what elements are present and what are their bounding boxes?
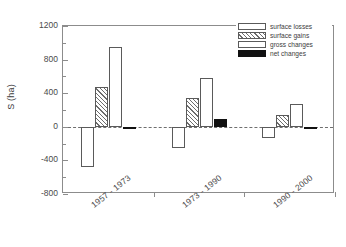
- y-axis-tick-major: [63, 26, 68, 27]
- legend-label: surface gains: [270, 32, 309, 39]
- y-axis-tick-major: [63, 194, 68, 195]
- bar-gross-changes: [200, 78, 213, 127]
- y-axis-tick-label: -400: [14, 154, 58, 164]
- x-axis-tick: [154, 192, 155, 197]
- bar-surface-gains: [95, 87, 108, 126]
- y-axis-tick-label: 800: [14, 54, 58, 64]
- legend-swatch: [238, 32, 266, 40]
- legend-swatch: [238, 50, 266, 58]
- figure: S (ha) surface lossessurface gainsgross …: [0, 0, 346, 247]
- bar-gross-changes: [109, 47, 122, 127]
- y-axis-tick-major: [63, 160, 68, 161]
- legend-label: surface losses: [270, 23, 312, 30]
- zero-reference-line: [63, 127, 333, 128]
- legend-swatch: [238, 23, 266, 31]
- legend-swatch: [238, 41, 266, 49]
- y-axis-tick-minor: [63, 144, 66, 145]
- x-axis-tick: [335, 192, 336, 197]
- y-axis-tick-major: [63, 60, 68, 61]
- bar-surface-gains: [276, 115, 289, 127]
- y-axis-tick-minor: [63, 177, 66, 178]
- bar-surface-losses: [262, 127, 275, 138]
- y-axis-tick-major: [63, 127, 68, 128]
- legend-label: gross changes: [270, 41, 313, 48]
- y-axis-tick-minor: [63, 76, 66, 77]
- bar-surface-losses: [172, 127, 185, 148]
- bar-gross-changes: [290, 104, 303, 127]
- y-axis-tick-minor: [63, 43, 66, 44]
- legend-item: net changes: [238, 49, 330, 58]
- chart-legend: surface lossessurface gainsgross changes…: [236, 20, 332, 60]
- y-axis-tick-major: [63, 93, 68, 94]
- y-axis-tick-label: 1200: [14, 20, 58, 30]
- y-axis-tick-label: -800: [14, 188, 58, 198]
- bar-net-changes: [304, 127, 317, 129]
- x-axis-tick: [244, 192, 245, 197]
- bar-surface-losses: [81, 127, 94, 167]
- y-axis-tick-label: 400: [14, 87, 58, 97]
- legend-label: net changes: [270, 50, 306, 57]
- bar-net-changes: [123, 127, 136, 129]
- y-axis-tick-label: 0: [14, 121, 58, 131]
- bar-surface-gains: [186, 98, 199, 127]
- legend-item: surface losses: [238, 22, 330, 31]
- bar-net-changes: [214, 119, 227, 127]
- legend-item: gross changes: [238, 40, 330, 49]
- y-axis-tick-minor: [63, 110, 66, 111]
- legend-item: surface gains: [238, 31, 330, 40]
